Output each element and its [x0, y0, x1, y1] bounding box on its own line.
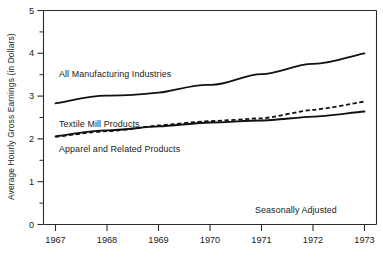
x-tick-label-1969: 1969: [148, 235, 168, 245]
x-tick-label-1970: 1970: [200, 235, 220, 245]
series-label-textile: Textile Mill Products: [59, 119, 140, 129]
y-tick-label-1: 1: [29, 177, 34, 187]
series-label-apparel: Apparel and Related Products: [59, 144, 181, 154]
line-chart: 0 1 2 3 4 5 Average Hourly Gross Earning…: [0, 0, 383, 261]
chart-figure: 0 1 2 3 4 5 Average Hourly Gross Earning…: [0, 0, 383, 261]
y-axis-title: Average Hourly Gross Earnings (in Dollar…: [6, 33, 16, 200]
x-tick-label-1968: 1968: [97, 235, 117, 245]
y-tick-label-0: 0: [29, 220, 34, 230]
y-tick-label-5: 5: [29, 6, 34, 16]
x-tick-label-1967: 1967: [45, 235, 65, 245]
y-tick-label-2: 2: [29, 134, 34, 144]
x-tick-label-1972: 1972: [303, 235, 323, 245]
x-tick-label-1973: 1973: [354, 235, 374, 245]
y-axis-minor-ticks: [40, 32, 44, 203]
y-axis-tick-labels: 0 1 2 3 4 5: [29, 6, 34, 230]
y-tick-label-4: 4: [29, 48, 34, 58]
x-axis-ticks: [56, 225, 365, 232]
series-label-all-manufacturing: All Manufacturing Industries: [59, 69, 172, 79]
x-tick-label-1971: 1971: [251, 235, 271, 245]
annotation-seasonally-adjusted: Seasonally Adjusted: [255, 205, 337, 215]
plot-frame: [44, 11, 377, 225]
x-axis-tick-labels: 1967 1968 1969 1970 1971 1972 1973: [45, 235, 374, 245]
y-tick-label-3: 3: [29, 91, 34, 101]
